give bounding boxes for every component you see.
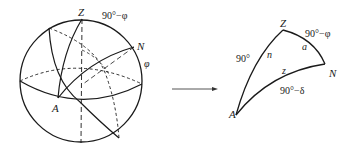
- astronomical-triangle: [236, 30, 325, 115]
- horizon-front-arc: [20, 81, 142, 99]
- side-label-zn: 90°−φ: [305, 28, 331, 39]
- horizon-back-arc: [20, 68, 142, 84]
- label-latitude-phi: φ: [144, 58, 150, 69]
- triangle-vertex-z: Z: [280, 17, 287, 29]
- triangle-vertex-a: A: [228, 108, 236, 120]
- polar-axis: [83, 47, 134, 84]
- label-star-a: A: [51, 102, 59, 114]
- vertical-circle-za: [58, 19, 82, 98]
- label-pole-n: N: [136, 40, 145, 52]
- label-colatitude: 90°−φ: [102, 10, 128, 21]
- arrow-head-icon: [212, 87, 218, 91]
- hour-circle-na: [58, 47, 134, 98]
- side-label-na: 90°−δ: [280, 85, 305, 96]
- side-label-za: 90°: [236, 53, 250, 64]
- label-zenith-z: Z: [78, 6, 85, 18]
- angle-label-n: n: [267, 49, 272, 60]
- triangle-vertex-n: N: [328, 67, 337, 79]
- side-za: [236, 30, 283, 115]
- angle-label-a: a: [302, 41, 307, 52]
- zenith-nadir-axis: [81, 19, 82, 143]
- celestial-sphere: [20, 19, 142, 143]
- angle-label-z: z: [281, 65, 286, 76]
- diagram-canvas: Z 90°−φ N φ A Z N A 90°−φ 90° 90°−δ n a …: [0, 0, 353, 156]
- transform-arrow: [172, 87, 218, 91]
